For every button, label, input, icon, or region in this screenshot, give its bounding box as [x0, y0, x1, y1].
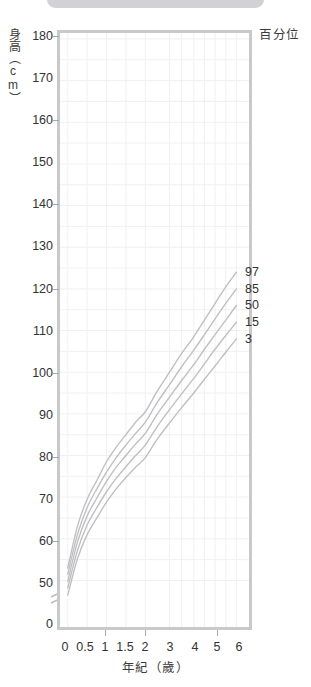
x-tick-mark	[105, 630, 106, 636]
growth-chart: 身高（cm） 050607080901001101201301401501601…	[0, 0, 311, 687]
x-axis-ticks: 00.511.523456	[0, 0, 311, 687]
y-tick-mark	[53, 289, 59, 290]
x-tick-mark	[145, 630, 146, 636]
x-tick-label: 6	[224, 640, 254, 654]
percentile-label-15: 15	[245, 315, 259, 329]
y-tick-mark	[53, 36, 59, 37]
percentile-label-50: 50	[245, 298, 259, 312]
y-tick-mark	[53, 120, 59, 121]
percentile-label-97: 97	[245, 265, 259, 279]
y-tick-mark	[53, 373, 59, 374]
percentile-label-3: 3	[245, 332, 252, 346]
percentile-legend-title: 百分位	[259, 24, 300, 43]
y-tick-mark	[53, 541, 59, 542]
x-tick-mark	[217, 630, 218, 636]
y-tick-mark	[53, 204, 59, 205]
y-tick-mark	[53, 457, 59, 458]
x-axis-title: 年紀（歲）	[0, 657, 311, 676]
percentile-label-85: 85	[245, 282, 259, 296]
